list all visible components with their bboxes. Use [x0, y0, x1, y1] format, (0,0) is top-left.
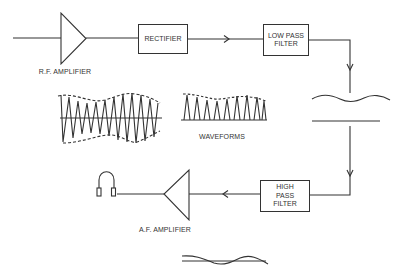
rectified-wave: [181, 94, 267, 120]
connector-capacitor-highpass: [310, 126, 350, 195]
rf-amplifier-icon: [61, 13, 86, 64]
audio-output-wave: [182, 256, 268, 264]
headphones-icon: [97, 172, 116, 196]
low-pass-label-line1: LOW PASS: [268, 32, 304, 41]
low-pass-filter-block: LOW PASS FILTER: [263, 24, 309, 56]
capacitor-wave-plate-icon: [312, 95, 390, 101]
high-pass-filter-block: HIGH PASS FILTER: [260, 180, 310, 212]
waveforms-label: WAVEFORMS: [192, 133, 252, 142]
high-pass-label-line1: HIGH: [276, 183, 294, 192]
high-pass-label-line2: PASS: [276, 192, 294, 201]
rectifier-block: RECTIFIER: [138, 24, 188, 54]
modulated-rf-wave: [58, 93, 162, 143]
high-pass-label-line3: FILTER: [273, 200, 297, 209]
af-amplifier-icon: [164, 170, 189, 220]
af-amplifier-label: A.F. AMPLIFIER: [130, 226, 200, 235]
rf-amplifier-label: R.F. AMPLIFIER: [30, 68, 100, 77]
connector-lowpass-capacitor: [309, 40, 350, 93]
rectifier-label: RECTIFIER: [145, 35, 182, 44]
low-pass-label-line2: FILTER: [274, 40, 298, 49]
